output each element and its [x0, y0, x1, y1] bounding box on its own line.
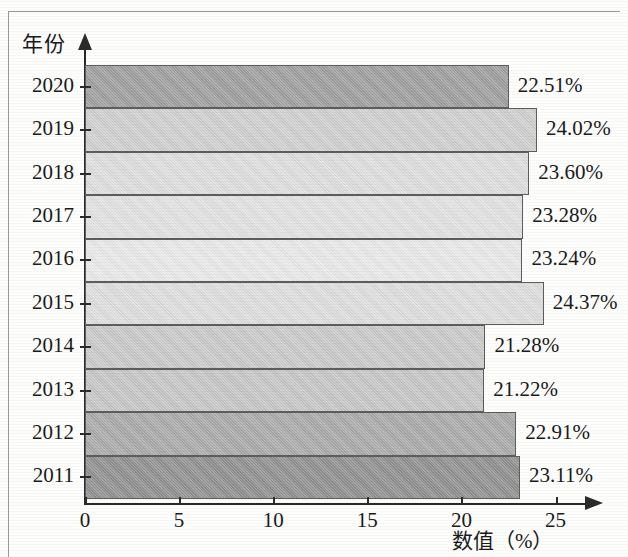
bar [85, 456, 520, 499]
y-axis-tick-label-wrap: 2013 [0, 377, 74, 401]
x-axis-tick-label: 5 [174, 508, 185, 532]
x-axis-tick-label-wrap: 15 [347, 508, 387, 533]
x-axis-arrow-head [585, 496, 603, 510]
bar-value-label: 23.60% [538, 160, 603, 185]
y-axis-tick-label-wrap: 2016 [0, 246, 74, 270]
x-axis-tick-label-wrap: 10 [253, 508, 293, 533]
bar-value-label: 24.02% [546, 116, 611, 141]
y-axis-tick-label: 2013 [8, 377, 74, 402]
y-axis-tick [80, 476, 91, 478]
bar [85, 369, 484, 412]
bar [85, 239, 522, 282]
x-axis-tick-label: 20 [451, 508, 472, 532]
y-axis-tick [80, 173, 91, 175]
y-axis-tick-label-wrap: 2014 [0, 333, 74, 357]
x-axis-tick [85, 497, 87, 505]
x-axis-tick [367, 497, 369, 505]
y-axis-tick-label: 2019 [8, 116, 74, 141]
y-axis-tick-label: 2016 [8, 246, 74, 271]
x-axis-tick-label: 25 [545, 508, 566, 532]
y-axis-tick [80, 129, 91, 131]
x-axis-tick-label: 0 [80, 508, 91, 532]
bar [85, 65, 509, 108]
y-axis-tick-label: 2012 [8, 420, 74, 445]
bar [85, 282, 544, 325]
x-axis-tick-label-wrap: 20 [441, 508, 481, 533]
bar-value-label: 23.28% [532, 203, 597, 228]
x-axis-tick [179, 497, 181, 505]
y-axis-tick [80, 346, 91, 348]
y-axis-tick [80, 216, 91, 218]
x-axis-tick-label-wrap: 0 [65, 508, 105, 533]
x-axis-tick-label: 15 [357, 508, 378, 532]
bar-value-label: 24.37% [553, 290, 618, 315]
y-axis-tick-label-wrap: 2012 [0, 420, 74, 444]
y-axis-tick [80, 86, 91, 88]
bar-value-label: 23.11% [529, 463, 593, 488]
bar [85, 412, 516, 455]
plot-area: 年份 数值（%） 22.51%24.02%23.60%23.28%23.24%2… [0, 0, 628, 557]
bar [85, 108, 537, 151]
x-axis-tick [273, 497, 275, 505]
x-axis-tick-label-wrap: 5 [159, 508, 199, 533]
bar [85, 325, 485, 368]
x-axis-line [84, 503, 587, 505]
y-axis-tick-label-wrap: 2015 [0, 290, 74, 314]
y-axis-tick-label-wrap: 2017 [0, 203, 74, 227]
bar-value-label: 23.24% [531, 246, 596, 271]
x-axis-tick-label: 10 [263, 508, 284, 532]
bar [85, 152, 529, 195]
bar-value-label: 22.51% [518, 73, 583, 98]
x-axis-tick [461, 497, 463, 505]
y-axis-tick-label: 2014 [8, 333, 74, 358]
bar-value-label: 21.28% [494, 333, 559, 358]
y-axis-tick-label: 2017 [8, 203, 74, 228]
y-axis-tick-label: 2011 [8, 463, 74, 488]
x-axis-tick-label-wrap: 25 [536, 508, 576, 533]
y-axis-tick [80, 433, 91, 435]
y-axis-arrow-head [78, 33, 92, 50]
chart-figure: 年份 数值（%） 22.51%24.02%23.60%23.28%23.24%2… [0, 0, 628, 557]
y-axis-tick [80, 390, 91, 392]
y-axis-tick [80, 303, 91, 305]
y-axis-tick-label: 2018 [8, 160, 74, 185]
y-axis-tick-label-wrap: 2011 [0, 463, 74, 487]
x-axis-tick [556, 497, 558, 505]
y-axis-tick-label-wrap: 2018 [0, 160, 74, 184]
y-axis-title: 年份 [22, 27, 66, 57]
bar-value-label: 22.91% [525, 420, 590, 445]
y-axis-tick-label-wrap: 2020 [0, 73, 74, 97]
bar [85, 195, 523, 238]
bar-value-label: 21.22% [493, 377, 558, 402]
y-axis-tick-label: 2015 [8, 290, 74, 315]
y-axis-tick-label-wrap: 2019 [0, 116, 74, 140]
y-axis-tick [80, 259, 91, 261]
y-axis-tick-label: 2020 [8, 73, 74, 98]
